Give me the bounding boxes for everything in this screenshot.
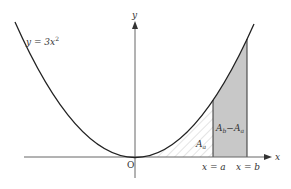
curve-label: y = 3x2: [25, 35, 59, 47]
x-axis-arrow-icon: [264, 154, 272, 160]
area-difference-label: Ab−Aa: [215, 123, 244, 134]
y-axis-arrow-icon: [132, 21, 138, 29]
y-axis-label: y: [131, 10, 138, 20]
x-equals-b-label: x = b: [236, 162, 260, 172]
area-b-minus-a-shaded-region: [213, 39, 247, 157]
origin-label: O: [127, 160, 134, 170]
parabola-area-diagram: y = 3x2 y x O x = a x = b Aa Ab−Aa: [0, 0, 291, 189]
x-axis-label: x: [275, 152, 280, 162]
x-equals-a-label: x = a: [202, 162, 226, 172]
